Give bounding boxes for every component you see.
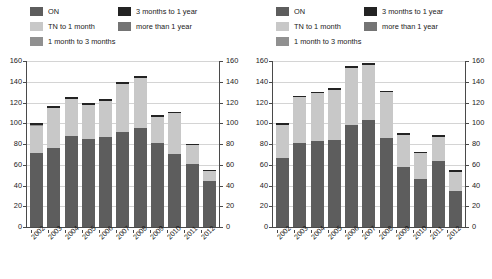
- x-axis-labels-right: 2002200320042005200620072008200920102011…: [272, 230, 466, 270]
- y-axis-tick-mark: [23, 206, 26, 207]
- bar-2007[interactable]: [116, 61, 129, 227]
- y-axis-tick-label: 20: [226, 202, 248, 210]
- bar-2009[interactable]: [151, 61, 164, 227]
- bar-segment: [276, 125, 289, 157]
- y-axis-tick-mark: [269, 144, 272, 145]
- legend-column-1: ON TN to 1 month 1 month to 3 months: [276, 5, 361, 50]
- y-axis-tick-label: 160: [2, 57, 22, 65]
- bar-2009[interactable]: [397, 61, 410, 227]
- legend-swatch-3-months-to-1-year: [364, 7, 377, 16]
- y-axis-tick-mark: [269, 123, 272, 124]
- legend-label-tn-to-1-month: TN to 1 month: [48, 22, 95, 31]
- bar-segment: [65, 99, 78, 135]
- bar-segment: [432, 161, 445, 227]
- y-axis-tick-mark: [466, 206, 469, 207]
- y-axis-tick-label: 140: [472, 78, 492, 86]
- y-axis-tick-mark: [466, 103, 469, 104]
- y-axis-tick-label: 20: [472, 202, 492, 210]
- y-axis-tick-mark: [269, 206, 272, 207]
- legend-label-more-than-1-year: more than 1 year: [136, 22, 192, 31]
- bar-segment: [99, 101, 112, 136]
- y-axis-tick-mark: [466, 82, 469, 83]
- legend-item-more-than-1-year: more than 1 year: [118, 20, 197, 33]
- y-axis-tick-mark: [220, 123, 223, 124]
- legend-label-1-month-to-3-months: 1 month to 3 months: [48, 37, 115, 46]
- legend-item-on: ON: [276, 5, 361, 18]
- bar-2012[interactable]: [449, 61, 462, 227]
- bar-2011[interactable]: [186, 61, 199, 227]
- y-axis-tick-label: 20: [248, 202, 268, 210]
- y-axis-tick-label: 100: [248, 119, 268, 127]
- bar-2006[interactable]: [99, 61, 112, 227]
- bar-2008[interactable]: [134, 61, 147, 227]
- bar-segment: [151, 143, 164, 227]
- y-axis-tick-mark: [466, 61, 469, 62]
- bar-segment: [362, 65, 375, 120]
- y-axis-tick-mark: [269, 61, 272, 62]
- bar-2002[interactable]: [30, 61, 43, 227]
- legend-swatch-3-months-to-1-year: [118, 7, 131, 16]
- figure-root: ON TN to 1 month 1 month to 3 months 3 m…: [0, 0, 492, 279]
- y-axis-tick-mark: [220, 165, 223, 166]
- y-axis-tick-mark: [23, 227, 26, 228]
- y-axis-tick-label: 60: [2, 161, 22, 169]
- bar-2002[interactable]: [276, 61, 289, 227]
- bar-2003[interactable]: [47, 61, 60, 227]
- legend-item-1-month-to-3-months: 1 month to 3 months: [30, 35, 115, 48]
- y-axis-tick-label: 160: [248, 57, 268, 65]
- y-axis-tick-mark: [466, 165, 469, 166]
- bar-segment: [311, 93, 324, 141]
- y-axis-tick-label: 80: [248, 140, 268, 148]
- legend-column-2: 3 months to 1 year more than 1 year: [364, 5, 443, 35]
- bar-2010[interactable]: [414, 61, 427, 227]
- legend-label-3-months-to-1-year: 3 months to 1 year: [382, 7, 443, 16]
- bar-2012[interactable]: [203, 61, 216, 227]
- legend-swatch-tn-to-1-month: [30, 22, 43, 31]
- bar-2004[interactable]: [65, 61, 78, 227]
- bar-2010[interactable]: [168, 61, 181, 227]
- legend-label-3-months-to-1-year: 3 months to 1 year: [136, 7, 197, 16]
- y-axis-tick-label: 120: [248, 99, 268, 107]
- y-axis-tick-label: 60: [248, 161, 268, 169]
- legend-item-1-month-to-3-months: 1 month to 3 months: [276, 35, 361, 48]
- y-axis-tick-mark: [269, 186, 272, 187]
- bar-2006[interactable]: [345, 61, 358, 227]
- bar-2008[interactable]: [380, 61, 393, 227]
- bar-segment: [380, 138, 393, 227]
- legend-left: ON TN to 1 month 1 month to 3 months 3 m…: [0, 5, 246, 47]
- y-axis-tick-mark: [23, 165, 26, 166]
- bar-2005[interactable]: [328, 61, 341, 227]
- bar-2004[interactable]: [311, 61, 324, 227]
- legend-label-more-than-1-year: more than 1 year: [382, 22, 438, 31]
- y-axis-tick-mark: [220, 82, 223, 83]
- bar-segment: [168, 154, 181, 227]
- bar-segment: [116, 84, 129, 132]
- bar-2007[interactable]: [362, 61, 375, 227]
- y-axis-tick-mark: [220, 61, 223, 62]
- y-axis-tick-label: 100: [226, 119, 248, 127]
- y-axis-tick-mark: [23, 186, 26, 187]
- y-axis-tick-label: 0: [472, 223, 492, 231]
- bar-segment: [380, 92, 393, 138]
- legend-item-3-months-to-1-year: 3 months to 1 year: [364, 5, 443, 18]
- bar-2005[interactable]: [82, 61, 95, 227]
- bar-segment: [293, 143, 306, 227]
- y-axis-tick-label: 60: [472, 161, 492, 169]
- legend-swatch-on: [276, 7, 289, 16]
- legend-swatch-more-than-1-year: [118, 22, 131, 31]
- y-axis-tick-label: 20: [2, 202, 22, 210]
- bar-segment: [151, 117, 164, 143]
- bar-2003[interactable]: [293, 61, 306, 227]
- legend-item-tn-to-1-month: TN to 1 month: [30, 20, 115, 33]
- legend-label-on: ON: [48, 7, 59, 16]
- y-axis-tick-mark: [23, 144, 26, 145]
- y-axis-tick-label: 120: [2, 99, 22, 107]
- bar-segment: [99, 137, 112, 227]
- bar-segment: [397, 167, 410, 227]
- legend-swatch-on: [30, 7, 43, 16]
- plot-area-left: [26, 61, 220, 227]
- bar-segment: [397, 135, 410, 167]
- bar-2011[interactable]: [432, 61, 445, 227]
- y-axis-tick-label: 80: [226, 140, 248, 148]
- x-axis-labels-left: 2002200320042005200620072008200920102011…: [26, 230, 220, 270]
